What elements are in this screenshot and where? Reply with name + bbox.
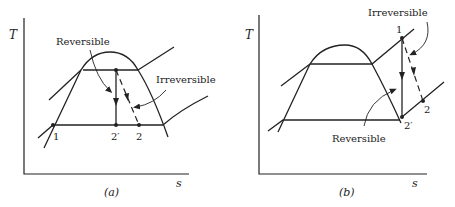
isobar-high-left-a <box>49 70 81 100</box>
point-2prime-label-b: 2′ <box>404 120 413 131</box>
irreversible-label-b: Irreversible <box>368 7 428 18</box>
state-point-1-b <box>400 36 404 40</box>
reversible-arrow-icon-b <box>399 72 405 80</box>
ts-diagrams: T s (a) 1 2′ 2 Reversible Irreversible <box>0 0 455 207</box>
t-axis-label-b: T <box>245 28 254 42</box>
caption-b: (b) <box>339 186 355 199</box>
irreversible-label-a: Irreversible <box>156 74 216 85</box>
s-axis-label-a: s <box>176 177 182 190</box>
state-point-2prime-a <box>114 123 118 127</box>
point-2prime-label-a: 2′ <box>111 131 120 142</box>
point-2-label-a: 2 <box>136 131 142 142</box>
reversible-label-a: Reversible <box>56 36 110 47</box>
irreversible-leader-b <box>412 22 428 54</box>
state-point-2-a <box>137 123 141 127</box>
isobar-low-right-a <box>163 96 208 125</box>
irreversible-arrow-icon-b <box>411 67 416 76</box>
reversible-label-b: Reversible <box>332 133 386 144</box>
s-axis-label-b: s <box>412 177 418 190</box>
isobar-high-right-a <box>138 47 174 70</box>
saturation-dome-b <box>278 45 401 132</box>
reversible-arrow-icon-a <box>113 98 119 106</box>
saturation-dome-a <box>44 52 168 148</box>
caption-a: (a) <box>104 186 119 199</box>
diagram-b: T s (b) 1 2′ 2 Irreversible Reversible <box>245 7 444 199</box>
point-1-label-b: 1 <box>396 24 402 35</box>
state-point-1-a <box>51 123 55 127</box>
diagram-a: T s (a) 1 2′ 2 Reversible Irreversible <box>9 18 216 199</box>
state-point-2prime-b <box>400 115 404 119</box>
t-axis-label-a: T <box>9 28 18 42</box>
state-point-top-a <box>114 68 118 72</box>
isobar-high-left-b <box>281 64 310 86</box>
state-point-2-b <box>421 99 425 103</box>
isobar-low-b <box>268 120 400 131</box>
point-1-label-a: 1 <box>53 131 59 142</box>
point-2-label-b: 2 <box>424 104 430 115</box>
irreversible-leader-a <box>136 90 166 107</box>
